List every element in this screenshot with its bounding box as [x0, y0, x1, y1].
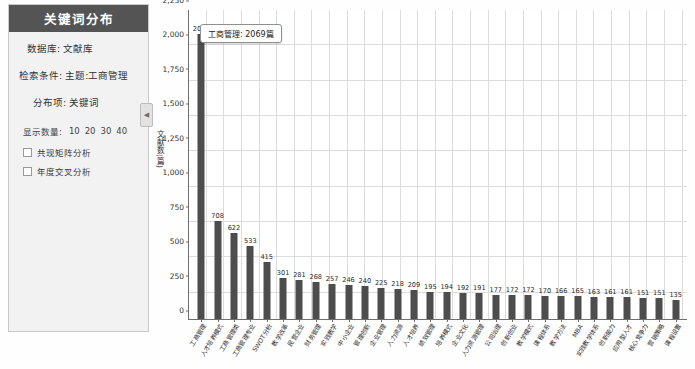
y-axis-tick: 2,250: [163, 0, 189, 5]
bar[interactable]: [280, 278, 287, 319]
bar[interactable]: [460, 293, 467, 319]
bar[interactable]: [198, 34, 205, 319]
bar-slot[interactable]: 170课程体系: [537, 10, 553, 319]
bar[interactable]: [345, 285, 352, 319]
bar[interactable]: [361, 286, 368, 319]
bar-slot[interactable]: 225企业管理: [373, 10, 389, 319]
display-count-option-10[interactable]: 10: [69, 126, 80, 136]
y-axis-tick: 1,500: [163, 99, 189, 108]
bar-value-label: 166: [555, 287, 568, 295]
bar-slot[interactable]: 135课程设置: [668, 10, 684, 319]
y-axis-tick: 1,750: [163, 64, 189, 73]
bar[interactable]: [263, 262, 270, 319]
display-count-option-20[interactable]: 20: [85, 126, 96, 136]
bar-slot[interactable]: 161创新能力: [602, 10, 618, 319]
bar-slot[interactable]: 622工商管理类: [226, 10, 242, 319]
x-axis-tick: [414, 319, 415, 322]
bar[interactable]: [443, 292, 450, 319]
bar[interactable]: [378, 288, 385, 319]
bar[interactable]: [607, 297, 614, 319]
bar-slot[interactable]: 191人力资源管理: [471, 10, 487, 319]
display-count-row: 显示数量: 10 20 30 40: [23, 125, 140, 137]
bar-slot[interactable]: 246中小企业: [340, 10, 356, 319]
bar[interactable]: [492, 295, 499, 319]
x-axis-tick: [332, 319, 333, 322]
bar[interactable]: [214, 221, 221, 319]
bar-slot[interactable]: 301教学改革: [275, 10, 291, 319]
annual-cross-analysis-checkbox[interactable]: [23, 167, 32, 176]
bar[interactable]: [639, 298, 646, 319]
display-count-option-40[interactable]: 40: [116, 126, 127, 136]
bar-value-label: 240: [359, 277, 372, 285]
bar-value-label: 708: [211, 212, 224, 220]
bar[interactable]: [509, 295, 516, 319]
bar-slot[interactable]: 163实践教学体系: [586, 10, 602, 319]
x-axis-tick: [594, 319, 595, 322]
bar[interactable]: [574, 296, 581, 319]
bar-slot[interactable]: 209人才培养: [406, 10, 422, 319]
cooccurrence-matrix-checkbox[interactable]: [23, 148, 32, 157]
bar[interactable]: [590, 297, 597, 319]
bar[interactable]: [394, 289, 401, 319]
display-count-label: 显示数量:: [23, 125, 62, 137]
annual-cross-analysis-label: 年度交叉分析: [37, 165, 91, 177]
bar-slot[interactable]: 151核心竞争力: [635, 10, 651, 319]
x-axis-category-label: 企业管理: [369, 323, 388, 347]
bar[interactable]: [525, 295, 532, 319]
x-axis-category-label: 实践教学: [319, 323, 338, 347]
bar-slot[interactable]: 177公司治理: [488, 10, 504, 319]
bar-slot[interactable]: 151营销策略: [651, 10, 667, 319]
bar[interactable]: [672, 300, 679, 319]
chart-plot-area: 02505007501,0001,2501,5001,7502,0002,250…: [188, 10, 687, 320]
x-axis-tick: [201, 319, 202, 322]
x-axis-tick: [365, 319, 366, 322]
bar-slot[interactable]: 415SWOT分析: [259, 10, 275, 319]
bar[interactable]: [329, 284, 336, 319]
bar-slot[interactable]: 2069工商管理: [193, 10, 209, 319]
bar-slot[interactable]: 218人力资源: [389, 10, 405, 319]
x-axis-tick: [283, 319, 284, 322]
x-axis-tick: [643, 319, 644, 322]
bar[interactable]: [296, 280, 303, 319]
bar-value-label: 191: [473, 284, 486, 292]
bar-slot[interactable]: 281民营企业: [291, 10, 307, 319]
query-value: 主题:工商管理: [65, 70, 128, 82]
display-count-option-30[interactable]: 30: [101, 126, 112, 136]
bar-slot[interactable]: 195绩效管理: [422, 10, 438, 319]
x-axis-category-label: 课程设置: [663, 323, 682, 347]
bar-value-label: 268: [309, 273, 322, 281]
bar-slot[interactable]: 161应用型人才: [618, 10, 634, 319]
bar-slot[interactable]: 165MBA: [569, 10, 585, 319]
bar-slot[interactable]: 166教学方法: [553, 10, 569, 319]
y-axis-tick: 250: [170, 271, 189, 280]
cooccurrence-matrix-row[interactable]: 共现矩阵分析: [23, 146, 140, 158]
bar-slot[interactable]: 708人才培养模式: [209, 10, 225, 319]
bar[interactable]: [410, 290, 417, 319]
x-axis-category-label: MBA: [570, 323, 583, 338]
meta-row-distribution: 分布项: 关键词: [19, 97, 140, 109]
bar[interactable]: [476, 293, 483, 319]
bar[interactable]: [312, 282, 319, 319]
bar[interactable]: [656, 298, 663, 319]
x-axis-tick: [430, 319, 431, 322]
bar-slot[interactable]: 194培养模式: [439, 10, 455, 319]
bar-slot[interactable]: 192企业文化: [455, 10, 471, 319]
bar-slot[interactable]: 172创新创业: [504, 10, 520, 319]
database-value: 文献库: [63, 43, 93, 55]
bar-slot[interactable]: 257实践教学: [324, 10, 340, 319]
bar-slot[interactable]: 240管理创新: [357, 10, 373, 319]
bar[interactable]: [427, 292, 434, 319]
meta-row-database: 数据库: 文献库: [19, 43, 140, 55]
bar-value-label: 194: [440, 283, 453, 291]
bar-slot[interactable]: 172教学模式: [520, 10, 536, 319]
bar-slot[interactable]: 533工商管理专业: [242, 10, 258, 319]
bar-value-label: 165: [571, 287, 584, 295]
bar-slot[interactable]: 268财务管理: [308, 10, 324, 319]
bar[interactable]: [541, 296, 548, 319]
bar[interactable]: [230, 233, 237, 319]
annual-cross-analysis-row[interactable]: 年度交叉分析: [23, 165, 140, 177]
bar[interactable]: [558, 296, 565, 319]
bar[interactable]: [247, 246, 254, 319]
bar-value-label: 533: [244, 237, 257, 245]
bar[interactable]: [623, 297, 630, 319]
